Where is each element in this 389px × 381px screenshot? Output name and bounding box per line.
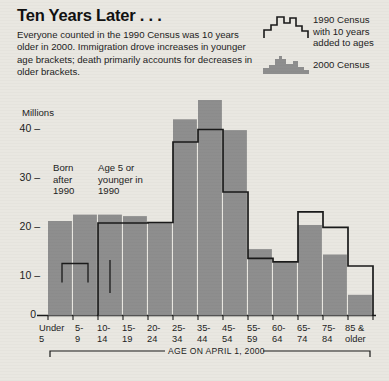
x-axis-caption: AGE ON APRIL 1, 2000: [168, 346, 265, 356]
chart-area: Millions 40 – 30 – 20 – 10 – 0: [0, 100, 389, 381]
x-label-20-24: 20- 24: [147, 323, 160, 344]
bar-45-54: [223, 130, 247, 315]
bar-85-older: [348, 295, 372, 316]
annotation-born-after-1990: Born after 1990: [53, 162, 93, 197]
axis-caption-rule-left: [50, 351, 165, 357]
x-label-60-64: 60- 64: [272, 323, 285, 344]
x-label-10-14: 10- 14: [97, 323, 110, 344]
x-label-45-54: 45- 54: [222, 323, 235, 344]
legend-item-1990: 1990 Census with 10 years added to ages: [262, 14, 387, 49]
bar-15-19: [123, 216, 147, 315]
x-label-25-34: 25- 34: [172, 323, 185, 344]
filled-skyline-icon: [262, 55, 310, 75]
infographic-root: Ten Years Later . . . Everyone counted i…: [0, 0, 389, 381]
legend-label-2000: 2000 Census: [310, 59, 370, 71]
x-label-5-9: 5- 9: [75, 323, 83, 344]
x-label-35-44: 35- 44: [197, 323, 210, 344]
bars-2000-census: [48, 100, 372, 316]
x-label-55-59: 55- 59: [247, 323, 260, 344]
outline-skyline-icon: [262, 14, 310, 40]
x-label-75-84: 75- 84: [322, 323, 335, 344]
legend: 1990 Census with 10 years added to ages …: [262, 14, 387, 75]
x-label-15-19: 15- 19: [122, 323, 135, 344]
bar-25-34: [173, 119, 197, 315]
bar-20-24: [148, 223, 172, 316]
legend-item-2000: 2000 Census: [262, 55, 387, 75]
x-label-under-5: Under 5: [39, 323, 64, 344]
x-label-65-74: 65- 74: [297, 323, 310, 344]
bar-60-64: [273, 262, 297, 315]
annotation-age-5-or-younger: Age 5 or younger in 1990: [98, 162, 160, 197]
bar-5-9: [73, 215, 97, 316]
bar-under-5: [48, 221, 72, 316]
bar-65-74: [298, 225, 322, 316]
x-axis-ticks: [48, 316, 373, 321]
deck-text: Everyone counted in the 1990 Census was …: [17, 29, 262, 79]
page-title: Ten Years Later . . .: [17, 6, 162, 25]
bar-35-44: [198, 100, 222, 316]
axis-caption-rule-right: [263, 351, 370, 357]
x-label-85-older: 85 & older: [345, 323, 366, 344]
legend-label-1990: 1990 Census with 10 years added to ages: [310, 14, 387, 49]
bar-75-84: [323, 255, 347, 316]
